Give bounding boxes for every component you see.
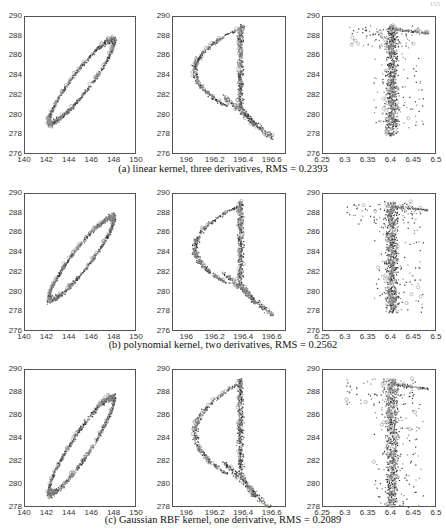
y-tick-label: 288 [298, 388, 320, 396]
scatter-plot-panel [172, 16, 286, 154]
y-tick-label: 286 [0, 411, 22, 419]
scatter-plot-panel [322, 16, 436, 154]
y-tick-label: 288 [298, 32, 320, 40]
y-tick-label: 280 [148, 111, 170, 119]
y-tick-label: 288 [148, 209, 170, 217]
y-tick-label: 290 [148, 365, 170, 373]
y-tick-label: 280 [298, 111, 320, 119]
y-tick-label: 282 [298, 457, 320, 465]
y-tick-label: 280 [0, 480, 22, 488]
y-tick-label: 290 [298, 12, 320, 20]
y-tick-label: 286 [0, 51, 22, 59]
y-tick-label: 280 [298, 288, 320, 296]
scatter-plot-panel [24, 16, 136, 154]
y-tick-label: 290 [298, 365, 320, 373]
y-tick-label: 286 [298, 51, 320, 59]
y-tick-label: 284 [0, 434, 22, 442]
y-tick-label: 288 [0, 32, 22, 40]
scatter-plot-panel [322, 369, 436, 507]
y-tick-label: 288 [148, 32, 170, 40]
y-tick-label: 282 [0, 457, 22, 465]
y-tick-label: 282 [298, 268, 320, 276]
y-tick-label: 288 [0, 209, 22, 217]
y-tick-label: 280 [298, 480, 320, 488]
y-tick-label: 284 [298, 248, 320, 256]
scatter-plot-panel [172, 369, 286, 507]
y-tick-label: 280 [0, 111, 22, 119]
scatter-plot-panel [172, 193, 286, 331]
y-tick-label: 282 [298, 91, 320, 99]
y-tick-label: 290 [0, 365, 22, 373]
figure-caption: (a) linear kernel, three derivatives, RM… [0, 163, 446, 174]
figure-caption: (b) polynomial kernel, two derivatives, … [0, 339, 446, 350]
y-tick-label: 286 [0, 228, 22, 236]
y-tick-label: 290 [298, 189, 320, 197]
y-tick-label: 284 [148, 71, 170, 79]
y-tick-label: 278 [298, 130, 320, 138]
scatter-plot-panel [322, 193, 436, 331]
y-tick-label: 276 [148, 327, 170, 335]
y-tick-label: 276 [148, 150, 170, 158]
y-tick-label: 288 [0, 388, 22, 396]
y-tick-label: 290 [148, 189, 170, 197]
y-tick-label: 278 [148, 130, 170, 138]
y-tick-label: 284 [148, 248, 170, 256]
y-tick-label: 288 [148, 388, 170, 396]
y-tick-label: 286 [148, 51, 170, 59]
figure-caption: (c) Gaussian RBF kernel, one derivative,… [0, 514, 446, 525]
y-tick-label: 282 [148, 268, 170, 276]
y-tick-label: 280 [148, 288, 170, 296]
y-tick-label: 282 [148, 91, 170, 99]
y-tick-label: 278 [148, 307, 170, 315]
y-tick-label: 282 [148, 457, 170, 465]
y-tick-label: 280 [0, 288, 22, 296]
y-tick-label: 284 [0, 248, 22, 256]
y-tick-label: 278 [148, 503, 170, 511]
y-tick-label: 282 [0, 268, 22, 276]
y-tick-label: 284 [298, 434, 320, 442]
y-tick-label: 286 [148, 411, 170, 419]
y-tick-label: 286 [148, 228, 170, 236]
y-tick-label: 284 [0, 71, 22, 79]
page-number: 155 [430, 0, 441, 8]
y-tick-label: 280 [148, 480, 170, 488]
y-tick-label: 278 [0, 130, 22, 138]
y-tick-label: 286 [298, 228, 320, 236]
y-tick-label: 290 [0, 189, 22, 197]
scatter-plot-panel [24, 193, 136, 331]
y-tick-label: 278 [0, 307, 22, 315]
y-tick-label: 286 [298, 411, 320, 419]
y-tick-label: 290 [0, 12, 22, 20]
y-tick-label: 284 [298, 71, 320, 79]
y-tick-label: 290 [148, 12, 170, 20]
scatter-plot-panel [24, 369, 136, 507]
y-tick-label: 288 [298, 209, 320, 217]
y-tick-label: 282 [0, 91, 22, 99]
y-tick-label: 278 [298, 307, 320, 315]
y-tick-label: 284 [148, 434, 170, 442]
